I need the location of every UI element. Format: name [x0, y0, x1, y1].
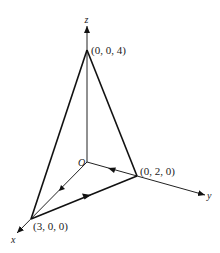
tetrahedron-diagram: z y x O (0, 0, 4) (0, 2, 0) (3, 0, 0) — [0, 0, 220, 253]
edge-apex-to-x — [31, 50, 87, 219]
y-point-label: (0, 2, 0) — [140, 165, 175, 178]
y-axis-label: y — [206, 190, 212, 201]
x-axis-label: x — [10, 234, 16, 245]
origin-label: O — [78, 157, 85, 168]
x-point-label: (3, 0, 0) — [33, 220, 68, 233]
arrowhead-y-to-origin — [108, 168, 116, 174]
apex-label: (0, 0, 4) — [91, 44, 126, 57]
edge-apex-to-y — [87, 50, 137, 176]
z-axis-label: z — [84, 14, 89, 25]
